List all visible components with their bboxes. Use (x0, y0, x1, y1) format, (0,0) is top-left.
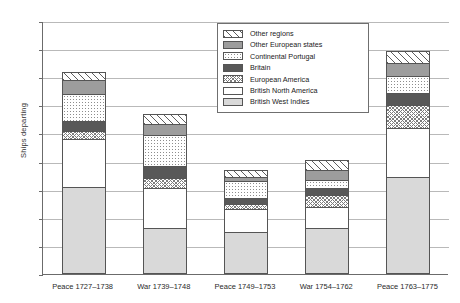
bar-4[interactable] (305, 160, 349, 274)
y-axis-title: Ships departing (19, 86, 28, 176)
bar-segment[interactable] (143, 124, 187, 135)
legend-swatch-icon (223, 30, 243, 38)
bar-segment[interactable] (305, 180, 349, 188)
bar-1[interactable] (62, 72, 106, 274)
bar-segment[interactable] (143, 188, 187, 227)
bar-segment[interactable] (305, 188, 349, 195)
bar-segment[interactable] (305, 207, 349, 228)
y-tick-mark (39, 106, 43, 107)
legend-swatch-icon (223, 87, 243, 95)
legend-swatch-icon (223, 52, 243, 60)
bar-segment[interactable] (224, 181, 268, 198)
bar-segment[interactable] (224, 204, 268, 210)
legend-swatch-icon (223, 41, 243, 49)
y-tick-mark (39, 219, 43, 220)
bar-segment[interactable] (143, 114, 187, 124)
chart-root: Ships departing 020406080100120140160180… (0, 0, 460, 303)
bar-segment[interactable] (386, 76, 430, 93)
bar-segment[interactable] (224, 170, 268, 177)
bar-segment[interactable] (305, 170, 349, 180)
y-tick-mark (39, 22, 43, 23)
bar-segment[interactable] (143, 228, 187, 274)
legend-label: European America (250, 76, 309, 83)
y-tick-mark (39, 134, 43, 135)
legend-item[interactable]: British North America (223, 85, 363, 96)
bar-segment[interactable] (143, 135, 187, 166)
bar-5[interactable] (386, 51, 430, 274)
y-tick-mark (39, 50, 43, 51)
bar-segment[interactable] (224, 232, 268, 274)
bar-segment[interactable] (386, 63, 430, 76)
legend-label: British North America (250, 87, 318, 94)
legend-label: British West Indies (250, 98, 309, 105)
bar-segment[interactable] (143, 178, 187, 188)
bar-segment[interactable] (224, 198, 268, 204)
y-tick-mark (39, 275, 43, 276)
bar-segment[interactable] (305, 228, 349, 274)
bar-segment[interactable] (386, 93, 430, 106)
y-tick-mark (39, 163, 43, 164)
y-tick-mark (39, 191, 43, 192)
bar-3[interactable] (224, 170, 268, 274)
legend-swatch-icon (223, 98, 243, 106)
legend-item[interactable]: Other regions (223, 28, 363, 39)
y-tick-mark (39, 78, 43, 79)
bar-2[interactable] (143, 114, 187, 274)
legend-label: Other regions (250, 30, 294, 37)
bar-segment[interactable] (386, 105, 430, 127)
bar-segment[interactable] (305, 160, 349, 170)
legend-item[interactable]: European America (223, 74, 363, 85)
legend-item[interactable]: Britain (223, 62, 363, 73)
bar-segment[interactable] (305, 195, 349, 206)
bar-segment[interactable] (224, 209, 268, 231)
legend-item[interactable]: Continental Portugal (223, 51, 363, 62)
bar-segment[interactable] (143, 166, 187, 179)
legend-item[interactable]: British West Indies (223, 96, 363, 107)
y-tick-mark (39, 247, 43, 248)
bar-segment[interactable] (62, 72, 106, 80)
bar-segment[interactable] (62, 94, 106, 121)
legend-swatch-icon (223, 64, 243, 72)
bar-segment[interactable] (224, 177, 268, 181)
bar-segment[interactable] (62, 187, 106, 274)
bar-segment[interactable] (62, 139, 106, 187)
bar-segment[interactable] (62, 121, 106, 131)
x-tick-label: Peace 1763–1775 (342, 282, 460, 291)
legend-swatch-icon (223, 75, 243, 83)
bar-segment[interactable] (62, 80, 106, 94)
bar-segment[interactable] (62, 131, 106, 139)
legend-item[interactable]: Other European states (223, 39, 363, 50)
legend-label: Britain (250, 64, 270, 71)
legend-label: Other European states (250, 41, 322, 48)
chart-legend: Other regionsOther European statesContin… (217, 23, 369, 113)
legend-label: Continental Portugal (250, 53, 315, 60)
bar-segment[interactable] (386, 128, 430, 177)
bar-segment[interactable] (386, 177, 430, 274)
bar-segment[interactable] (386, 51, 430, 64)
